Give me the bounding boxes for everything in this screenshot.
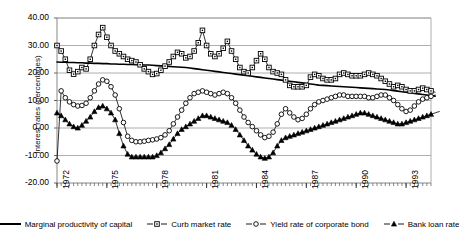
- marker-square-dot: [410, 90, 411, 91]
- marker-triangle: [279, 138, 284, 143]
- marker-square-dot: [198, 42, 199, 43]
- marker-square-dot: [148, 71, 149, 72]
- marker-triangle: [229, 123, 234, 128]
- marker-square-dot: [164, 65, 165, 66]
- series-bank-loan-rate: [54, 103, 439, 160]
- marker-square-dot: [144, 68, 145, 69]
- marker-circle: [55, 159, 60, 164]
- marker-square-dot: [135, 61, 136, 62]
- marker-circle: [429, 94, 434, 99]
- marker-square-dot: [223, 48, 224, 49]
- marker-square-dot: [156, 73, 157, 74]
- marker-circle: [84, 101, 89, 106]
- marker-square-dot: [193, 50, 194, 51]
- marker-square-dot: [206, 45, 207, 46]
- marker-square-dot: [210, 53, 211, 54]
- marker-square-dot: [243, 71, 244, 72]
- marker-square-dot: [422, 87, 423, 88]
- marker-square-dot: [77, 71, 78, 72]
- marker-circle: [229, 95, 234, 100]
- marker-square-dot: [414, 90, 415, 91]
- marker-triangle: [196, 116, 201, 121]
- marker-square-dot: [157, 223, 158, 224]
- marker-square-dot: [60, 50, 61, 51]
- marker-triangle: [391, 221, 396, 226]
- marker-circle: [258, 133, 263, 138]
- series-curb-market-rate: [55, 25, 435, 93]
- marker-circle: [188, 95, 193, 100]
- marker-triangle: [192, 118, 197, 123]
- marker-square-dot: [397, 85, 398, 86]
- series-yield-rate-of-corporate-bond: [55, 78, 435, 164]
- y-tick-label: -20.00: [5, 177, 49, 187]
- marker-square-dot: [430, 90, 431, 91]
- marker-square-dot: [127, 59, 128, 60]
- marker-square-dot: [260, 53, 261, 54]
- marker-circle: [416, 100, 421, 105]
- marker-circle: [412, 104, 417, 109]
- marker-circle: [308, 106, 313, 111]
- marker-square-dot: [401, 86, 402, 87]
- legend-item[interactable]: Yield rate of corporate bond: [245, 219, 368, 229]
- marker-square-dot: [131, 60, 132, 61]
- marker-circle: [250, 124, 255, 129]
- marker-triangle: [71, 124, 76, 129]
- marker-square-dot: [227, 41, 228, 42]
- marker-circle: [233, 101, 238, 106]
- marker-square-dot: [314, 74, 315, 75]
- marker-triangle: [117, 131, 122, 136]
- legend-marker-triangle-icon: [383, 219, 405, 229]
- marker-square-dot: [360, 75, 361, 76]
- chart-legend: Marginal productivity of capitalCurb mar…: [0, 213, 455, 235]
- marker-circle: [395, 102, 400, 107]
- marker-circle: [400, 106, 405, 111]
- marker-square-dot: [185, 57, 186, 58]
- marker-circle: [283, 106, 288, 111]
- marker-square-dot: [347, 74, 348, 75]
- legend-label: Yield rate of corporate bond: [270, 220, 368, 229]
- marker-square-dot: [326, 79, 327, 80]
- marker-square-dot: [376, 75, 377, 76]
- marker-square-dot: [372, 74, 373, 75]
- marker-square-dot: [339, 74, 340, 75]
- marker-circle: [391, 98, 396, 103]
- marker-triangle: [187, 121, 192, 126]
- x-tick-label: 1972: [61, 170, 71, 189]
- y-tick-label: 30.00: [5, 40, 49, 50]
- legend-label: Curb market rate: [171, 220, 231, 229]
- marker-square-dot: [81, 67, 82, 68]
- legend-marker-circle-icon: [245, 219, 267, 229]
- marker-circle: [246, 120, 251, 125]
- marker-square-dot: [69, 70, 70, 71]
- marker-circle: [179, 108, 184, 113]
- marker-square-dot: [285, 79, 286, 80]
- marker-circle: [113, 93, 118, 98]
- marker-circle: [121, 120, 126, 125]
- marker-circle: [238, 108, 243, 113]
- marker-circle: [225, 91, 230, 96]
- marker-square-dot: [202, 30, 203, 31]
- marker-square-dot: [173, 56, 174, 57]
- marker-square-dot: [331, 79, 332, 80]
- marker-circle: [254, 128, 259, 133]
- legend-item[interactable]: Marginal productivity of capital: [0, 219, 132, 229]
- marker-square-dot: [56, 45, 57, 46]
- legend-item[interactable]: Curb market rate: [146, 219, 231, 229]
- legend-marker-line-icon: [0, 219, 22, 229]
- marker-square-dot: [297, 86, 298, 87]
- marker-square-dot: [264, 59, 265, 60]
- x-tick-label: 1990: [360, 170, 370, 189]
- marker-square-dot: [119, 53, 120, 54]
- marker-square-dot: [301, 86, 302, 87]
- marker-square-dot: [393, 86, 394, 87]
- marker-square-dot: [356, 75, 357, 76]
- marker-square-dot: [247, 72, 248, 73]
- marker-circle: [184, 101, 189, 106]
- marker-circle: [383, 93, 388, 98]
- marker-circle: [117, 106, 122, 111]
- marker-square-dot: [110, 45, 111, 46]
- marker-circle: [304, 112, 309, 117]
- marker-square-dot: [94, 45, 95, 46]
- marker-square-dot: [351, 75, 352, 76]
- legend-item[interactable]: Bank loan rate: [383, 219, 459, 229]
